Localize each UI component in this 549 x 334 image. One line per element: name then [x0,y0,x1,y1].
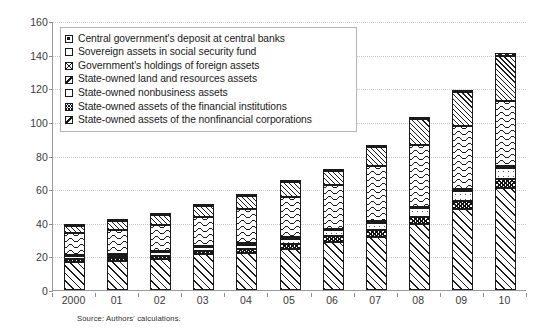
x-axis-tick-label: 03 [197,295,209,306]
x-axis-tick-mark [311,293,312,297]
bar-segment [366,145,387,147]
bar-segment [236,196,257,209]
bar-segment [495,188,516,290]
legend-item[interactable]: State-owned land and resources assets [65,73,351,87]
bar-segment [452,126,473,189]
bar-segment [495,168,516,179]
bar-segment [150,225,171,251]
bar-segment [64,262,85,290]
y-axis: 020406080100120140160 [0,22,48,291]
x-axis-tick-mark [267,293,268,297]
bar-segment [409,217,430,225]
bar-09 [452,21,473,290]
bar-segment [323,185,344,229]
bar-segment [452,201,473,209]
bar-segment [323,242,344,290]
y-axis-tick-mark [49,291,53,292]
bar-segment [193,254,214,290]
bar-segment [64,256,85,259]
bar-segment [323,230,344,236]
bar-segment [323,236,344,242]
legend-item-label: State-owned land and resources assets [78,74,257,84]
bar-segment [495,53,516,56]
legend-item-label: State-owned assets of the financial inst… [78,102,287,112]
legend-item-label: State-owned nonbusiness assets [78,88,228,98]
legend-item[interactable]: State-owned assets of the financial inst… [65,100,351,114]
bar-segment [409,145,430,207]
legend-item[interactable]: State-owned nonbusiness assets [65,86,351,100]
bar-segment [107,221,128,230]
bar-segment [409,117,430,120]
y-axis-tick-mark [49,157,53,158]
x-axis-tick-label: 05 [283,295,295,306]
bar-segment [366,223,387,231]
x-axis-tick-label: 10 [499,295,511,306]
legend-item[interactable]: State-owned assets of the nonfinancial c… [65,114,351,128]
bar-segment [64,233,85,255]
x-axis-tick-label: 2000 [62,295,86,306]
bar-segment [280,239,301,244]
bar-segment [193,217,214,246]
bar-segment [452,209,473,290]
y-axis-tick-mark [49,89,53,90]
bar-segment [150,256,171,259]
bar-segment [64,226,85,234]
bar-segment [280,244,301,249]
y-axis-tick-label: 100 [0,118,48,129]
legend-swatch-icon [65,35,73,43]
bar-segment [495,56,516,101]
y-axis-tick-mark [49,257,53,258]
bar-segment [323,171,344,185]
bar-segment [452,92,473,126]
bar-segment [366,147,387,165]
bar-segment [280,249,301,290]
y-axis-tick-mark [49,123,53,124]
bar-segment [495,166,516,168]
y-axis-tick-label: 80 [0,151,48,162]
legend-item[interactable]: Central government's deposit at central … [65,32,351,46]
bar-08 [409,21,430,290]
legend-item-label: Central government's deposit at central … [78,34,285,44]
bar-segment [64,224,85,226]
legend-item-label: Sovereign assets in social security fund [78,47,256,57]
x-axis-tick-label: 09 [455,295,467,306]
bar-segment [236,253,257,290]
legend-item[interactable]: Sovereign assets in social security fund [65,46,351,60]
x-axis-tick-label: 06 [326,295,338,306]
x-axis-tick-mark [52,293,53,297]
legend-item[interactable]: Government's holdings of foreign assets [65,59,351,73]
bar-segment [409,119,430,144]
bar-segment [150,252,171,255]
bar-segment [323,169,344,171]
bar-segment [107,256,128,259]
bar-segment [236,194,257,196]
x-axis-tick-mark [95,293,96,297]
bar-segment [280,182,301,197]
bar-segment [107,258,128,261]
legend-swatch-icon [65,48,73,56]
x-axis-tick-label: 08 [412,295,424,306]
bar-segment [409,208,430,216]
bar-07 [366,21,387,290]
y-axis-tick-label: 160 [0,17,48,28]
source-note: Source: Authors' calculations. [77,315,181,323]
bar-segment [193,204,214,206]
chart-legend: Central government's deposit at central … [60,27,357,132]
bar-segment [193,247,214,250]
bar-segment [452,90,473,93]
x-axis-tick-label: 01 [111,295,123,306]
y-axis-tick-mark [49,22,53,23]
x-axis-tick-mark [397,293,398,297]
bar-segment [107,219,128,221]
bar-segment [236,249,257,253]
legend-item-label: Government's holdings of foreign assets [78,61,259,71]
bar-segment [366,166,387,221]
y-axis-tick-label: 0 [0,286,48,297]
legend-swatch-icon [65,116,73,124]
y-axis-tick-label: 60 [0,185,48,196]
x-axis-tick-mark [224,293,225,297]
bar-segment [107,261,128,290]
bar-segment [107,230,128,254]
bar-segment [150,259,171,290]
legend-item-label: State-owned assets of the nonfinancial c… [78,115,312,125]
